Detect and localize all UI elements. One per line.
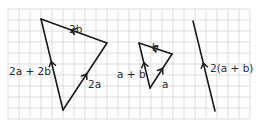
vector-label: 2b: [69, 23, 83, 35]
vector-2a-2b: 2a + 2b: [9, 19, 63, 110]
vector-label: 2a: [88, 78, 101, 90]
vector-a: a: [150, 54, 172, 90]
vector-line: [150, 54, 172, 88]
single-vector: 2(a + b): [193, 21, 253, 111]
small-triangle: aba + b: [117, 41, 172, 90]
vector-line: [139, 43, 150, 88]
vector-label: a: [162, 78, 168, 90]
vector-label: 2(a + b): [210, 62, 253, 74]
vector-diagram: 2a2b2a + 2baba + b2(a + b): [0, 0, 263, 129]
vector-a-b: a + b: [117, 43, 150, 88]
large-triangle: 2a2b2a + 2b: [9, 19, 107, 110]
vector-label: b: [152, 41, 159, 53]
vector-2-a-b-: 2(a + b): [193, 21, 253, 111]
vector-label: 2a + 2b: [9, 65, 51, 77]
vector-label: a + b: [117, 68, 146, 80]
vector-b: b: [139, 41, 172, 54]
